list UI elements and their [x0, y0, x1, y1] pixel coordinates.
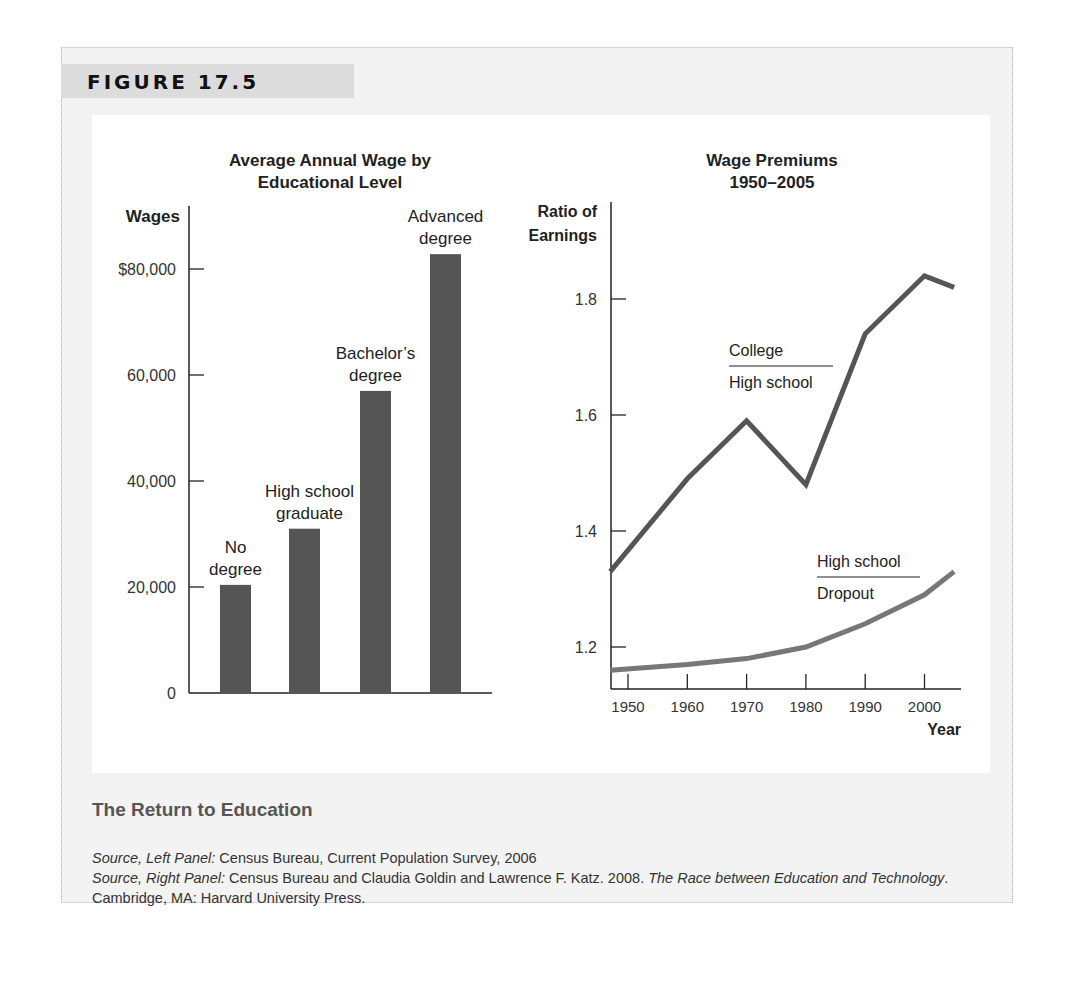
bar-category-label: degree — [209, 560, 262, 579]
source-right-book: The Race between Education and Technolog… — [648, 870, 944, 886]
bar-category-label: Bachelor’s — [336, 344, 416, 363]
bar-chart-title-line2: Educational Level — [258, 173, 403, 192]
bar-chart-wages: Average Annual Wage by Educational Level… — [118, 151, 492, 702]
series-label-college-highschool: College High school — [729, 342, 833, 391]
y-tick-label: 1.8 — [575, 291, 597, 308]
bar — [220, 585, 251, 693]
series-label-high-school: High school — [729, 374, 813, 391]
x-tick-label: 1980 — [789, 698, 822, 715]
y-tick-label: 60,000 — [127, 367, 176, 384]
bar-category-label: No — [225, 538, 247, 557]
bar-chart-ylabel: Wages — [126, 207, 180, 226]
bar — [430, 254, 461, 693]
bar-category-label: High school — [265, 482, 354, 501]
bar-category-label: degree — [349, 366, 402, 385]
bar — [360, 391, 391, 693]
line-chart-title-line2: 1950–2005 — [729, 173, 814, 192]
source-right-prefix: Source, Right Panel: — [92, 870, 225, 886]
x-tick-label: 1960 — [671, 698, 704, 715]
series-label-high-school-2: High school — [817, 553, 901, 570]
bar-chart-bars: NodegreeHigh schoolgraduateBachelor’sdeg… — [209, 207, 483, 693]
y-tick-label: 1.4 — [575, 523, 597, 540]
line-chart-x-ticks: 195019601970198019902000 — [611, 674, 941, 715]
y-tick-label: 1.6 — [575, 407, 597, 424]
figure-caption-title: The Return to Education — [92, 799, 313, 821]
bar-chart-y-ticks: 020,00040,00060,000$80,000 — [118, 261, 204, 702]
line-chart-title-line1: Wage Premiums — [706, 151, 838, 170]
y-tick-label: 40,000 — [127, 473, 176, 490]
series-label-dropout: Dropout — [817, 585, 874, 602]
x-tick-label: 1970 — [730, 698, 763, 715]
line-chart-xlabel: Year — [927, 721, 961, 738]
x-tick-label: 2000 — [908, 698, 941, 715]
line-chart-ylabel-line2: Earnings — [529, 227, 598, 244]
line-chart-y-ticks: 1.21.41.61.8 — [575, 291, 626, 656]
bar-category-label: Advanced — [408, 207, 484, 226]
series-label-highschool-dropout: High school Dropout — [817, 553, 920, 602]
bar — [289, 529, 320, 693]
charts-canvas: Average Annual Wage by Educational Level… — [0, 0, 1069, 985]
source-left-panel: Source, Left Panel: Census Bureau, Curre… — [92, 848, 537, 868]
bar-chart-title-line1: Average Annual Wage by — [229, 151, 432, 170]
bar-category-label: degree — [419, 229, 472, 248]
bar-category-label: graduate — [276, 504, 343, 523]
line-chart-series — [610, 276, 954, 670]
source-right-text: Census Bureau and Claudia Goldin and Law… — [225, 870, 648, 886]
y-tick-label: 1.2 — [575, 639, 597, 656]
series-line — [610, 572, 954, 671]
source-left-prefix: Source, Left Panel: — [92, 850, 215, 866]
y-tick-label: 0 — [167, 685, 176, 702]
x-tick-label: 1950 — [611, 698, 644, 715]
source-right-panel: Source, Right Panel: Census Bureau and C… — [92, 868, 992, 908]
y-tick-label: 20,000 — [127, 579, 176, 596]
series-label-college: College — [729, 342, 783, 359]
y-tick-label: $80,000 — [118, 261, 176, 278]
x-tick-label: 1990 — [849, 698, 882, 715]
line-chart-wage-premiums: Wage Premiums 1950–2005 Ratio of Earning… — [529, 151, 961, 738]
line-chart-ylabel-line1: Ratio of — [537, 203, 597, 220]
series-line — [610, 276, 954, 572]
source-left-text: Census Bureau, Current Population Survey… — [215, 850, 536, 866]
